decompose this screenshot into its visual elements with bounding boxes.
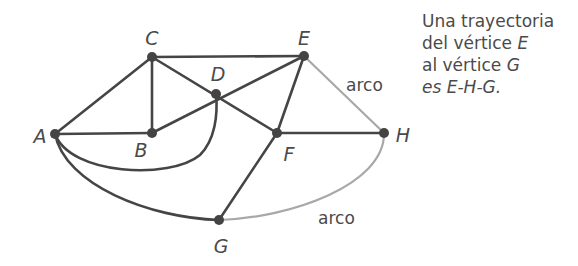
vertex-d — [211, 89, 221, 99]
vertex-label-e: E — [298, 29, 310, 48]
vertex-b — [147, 128, 157, 138]
caption-line-3: al vértice G — [422, 54, 554, 76]
caption-line-2-var: E — [517, 33, 528, 53]
vertex-label-h: H — [396, 126, 410, 145]
arc-label-e-h: arco — [346, 77, 383, 94]
vertex-label-d: D — [211, 65, 226, 84]
vertex-label-b: B — [134, 141, 147, 160]
vertex-label-g: G — [214, 237, 229, 256]
caption-line-2-text: del vértice — [422, 33, 517, 53]
caption-line-3-var: G — [507, 55, 520, 75]
vertex-e — [299, 51, 309, 61]
caption: Una trayectoria del vértice E al vértice… — [422, 10, 554, 98]
edge-a-b — [55, 133, 152, 134]
caption-line-4: es E-H-G. — [422, 76, 554, 98]
vertex-c — [147, 52, 157, 62]
caption-line-4-text: es E-H-G. — [422, 77, 501, 97]
arc-label-h-g: arco — [318, 210, 355, 227]
vertex-g — [214, 215, 224, 225]
edge-a-c — [55, 57, 152, 134]
caption-line-3-text: al vértice — [422, 55, 507, 75]
edge-c-e — [152, 56, 304, 57]
caption-line-1: Una trayectoria — [422, 10, 554, 32]
vertex-label-c: C — [145, 29, 158, 48]
edge-f-g — [219, 133, 277, 220]
vertex-label-f: F — [284, 145, 295, 164]
vertex-h — [379, 128, 389, 138]
edge-h-g-highlight — [219, 133, 384, 220]
vertex-label-a: A — [34, 127, 47, 146]
vertex-f — [272, 128, 282, 138]
vertex-a — [50, 129, 60, 139]
caption-line-2: del vértice E — [422, 32, 554, 54]
